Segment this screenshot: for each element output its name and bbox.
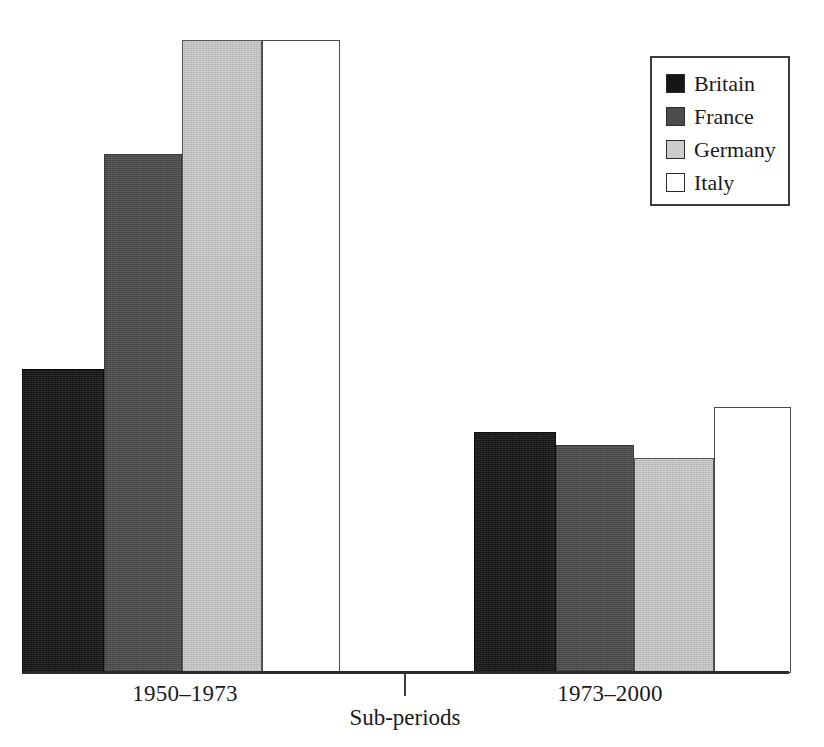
legend-swatch-germany-icon bbox=[666, 140, 685, 159]
legend-item-italy: Italy bbox=[666, 166, 788, 199]
legend-item-france: France bbox=[666, 100, 788, 133]
x-axis-tick-mark bbox=[404, 673, 406, 696]
legend-swatch-italy-icon bbox=[666, 173, 685, 192]
bar-france-1950-1973 bbox=[104, 154, 182, 673]
bar-italy-1973-2000 bbox=[714, 407, 791, 673]
bar-britain-1950-1973 bbox=[22, 369, 104, 673]
bar-france-1973-2000 bbox=[556, 445, 634, 673]
legend-item-britain: Britain bbox=[666, 67, 788, 100]
bar-britain-1973-2000 bbox=[474, 432, 556, 673]
legend-swatch-france-icon bbox=[666, 107, 685, 126]
bar-germany-1973-2000 bbox=[634, 458, 714, 673]
legend-label-italy: Italy bbox=[694, 172, 734, 194]
legend-item-germany: Germany bbox=[666, 133, 788, 166]
x-axis-title: Sub-periods bbox=[310, 705, 500, 731]
x-axis-tick-label-1950-1973: 1950–1973 bbox=[95, 681, 275, 707]
legend-label-britain: Britain bbox=[694, 73, 755, 95]
x-axis-tick-label-1973-2000: 1973–2000 bbox=[520, 681, 700, 707]
legend-label-france: France bbox=[694, 106, 754, 128]
legend-label-germany: Germany bbox=[694, 139, 776, 161]
legend-swatch-britain-icon bbox=[666, 74, 685, 93]
bar-italy-1950-1973 bbox=[262, 40, 340, 673]
bar-chart: 1950–1973 1973–2000 Sub-periods Britain … bbox=[0, 0, 824, 747]
chart-legend: Britain France Germany Italy bbox=[650, 56, 790, 206]
bar-germany-1950-1973 bbox=[182, 40, 262, 673]
